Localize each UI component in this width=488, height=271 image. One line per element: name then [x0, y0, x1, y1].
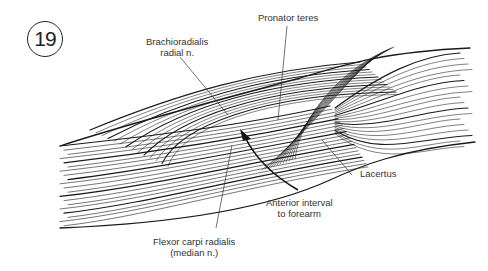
- forearm-illustration: [0, 0, 488, 271]
- label-pronator-teres-text: Pronator teres: [258, 12, 318, 23]
- label-flexor-line1: Flexor carpi radialis: [153, 236, 235, 247]
- label-pronator-teres: Pronator teres: [258, 12, 318, 23]
- label-flexor-line2: (median n.): [153, 247, 235, 258]
- label-anterior-interval-line2: to forearm: [266, 208, 333, 219]
- arrowhead-icon: [240, 129, 251, 141]
- label-brachioradialis: Brachioradialis radial n.: [146, 36, 208, 58]
- muscle-fiber: [60, 135, 348, 184]
- muscle-fiber: [335, 86, 468, 117]
- label-brachioradialis-line2: radial n.: [146, 47, 208, 58]
- muscle-fiber: [335, 108, 468, 124]
- muscle-fiber: [335, 119, 460, 132]
- muscle-fiber: [335, 131, 472, 145]
- muscle-fiber: [156, 90, 393, 161]
- label-brachioradialis-line1: Brachioradialis: [146, 36, 208, 47]
- muscle-fiber: [64, 138, 350, 188]
- leader-pronator-teres: [278, 26, 287, 120]
- muscle-fiber: [335, 59, 464, 110]
- label-anterior-interval-line1: Anterior interval: [266, 197, 333, 208]
- label-lacertus-text: Lacertus: [360, 168, 396, 179]
- muscle-fiber: [108, 70, 369, 139]
- label-anterior-interval: Anterior interval to forearm: [266, 197, 333, 219]
- label-flexor-carpi-radialis: Flexor carpi radialis (median n.): [153, 236, 235, 258]
- label-lacertus: Lacertus: [360, 168, 396, 179]
- leader-brachioradialis: [180, 57, 228, 115]
- muscle-fiber: [335, 92, 472, 119]
- muscle-fiber: [335, 125, 464, 136]
